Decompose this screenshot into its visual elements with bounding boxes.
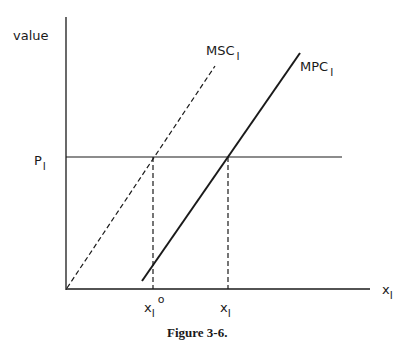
figure-caption: Figure 3-6. (167, 325, 227, 340)
x-axis-label: xl (382, 282, 393, 302)
price-label: Pl (34, 153, 46, 173)
x-tick-social-optimum: xlo (144, 293, 165, 320)
mpc-label: MPCl (300, 59, 333, 79)
mpc-curve (142, 53, 300, 281)
msc-curve (67, 66, 215, 288)
x-tick-private-equilibrium: xl (220, 300, 231, 320)
msc-label: MSCl (206, 43, 240, 63)
y-axis-label: value (13, 28, 49, 43)
externality-diagram: value Pl MSCl MPCl xlo xl xl Figure 3-6. (0, 0, 415, 356)
